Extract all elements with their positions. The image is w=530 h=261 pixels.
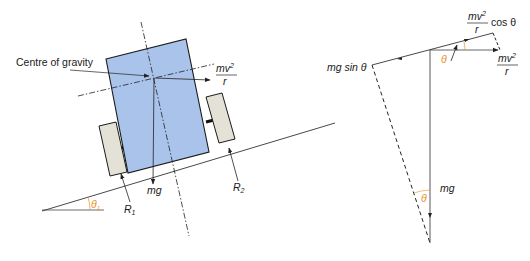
weight-label: mg xyxy=(147,184,162,196)
reaction-r1-arrow xyxy=(121,174,130,202)
mg-sin-label: mg sin θ xyxy=(327,61,367,73)
vehicle-banked-curve-diagram: θ1 Centre of gravity mv2 r mg R1 R2 xyxy=(0,0,530,261)
cos-component-label: mv2 r cos θ xyxy=(467,10,516,35)
svg-text:mv2: mv2 xyxy=(216,62,234,74)
svg-text:mv2: mv2 xyxy=(498,52,516,64)
reaction-r2-label: R2 xyxy=(233,181,245,194)
reaction-r1-label: R1 xyxy=(124,203,136,216)
cog-label: Centre of gravity xyxy=(16,56,94,68)
right-wheel xyxy=(206,93,235,143)
bank-angle-label: θ1 xyxy=(91,198,100,211)
svg-text:cos θ: cos θ xyxy=(491,16,516,28)
left-panel: θ1 Centre of gravity mv2 r mg R1 R2 xyxy=(16,22,335,236)
theta-pointer xyxy=(451,45,457,61)
centripetal-force-label: mv2 r xyxy=(216,62,237,87)
mg-label-right: mg xyxy=(440,182,455,194)
svg-text:r: r xyxy=(223,75,227,87)
svg-text:r: r xyxy=(505,65,509,77)
svg-text:mv2: mv2 xyxy=(468,10,486,22)
horizontal-component-label: mv2 r xyxy=(497,52,518,77)
right-panel: θ θ mv2 r cos θ mv2 r mg sin θ mg xyxy=(327,10,518,243)
dashed-projection-left xyxy=(372,65,430,243)
angle-top-label: θ xyxy=(441,53,447,65)
incline-component-line xyxy=(372,33,493,65)
angle-bottom-label: θ xyxy=(421,192,427,204)
svg-text:r: r xyxy=(475,23,479,35)
dashed-projection-top xyxy=(493,33,500,50)
bank-angle-arc xyxy=(88,197,90,210)
top-angle-arc xyxy=(464,42,465,50)
